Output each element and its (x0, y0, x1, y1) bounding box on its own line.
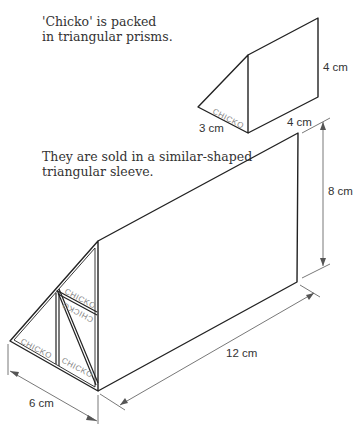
sleeve-length-label: 12 cm (226, 347, 257, 359)
small-prism-height-label: 4 cm (323, 61, 348, 73)
sleeve-base-label: 6 cm (29, 397, 54, 409)
large-sleeve-side-face (98, 133, 298, 391)
prism-diagram: CHICKO 3 cm 4 cm 4 cm CHICKO CHICKO CHIC… (0, 0, 360, 435)
small-prism-base-label: 3 cm (199, 122, 224, 134)
sleeve-height-label: 8 cm (328, 185, 353, 197)
small-prism-length-label: 4 cm (287, 116, 312, 128)
